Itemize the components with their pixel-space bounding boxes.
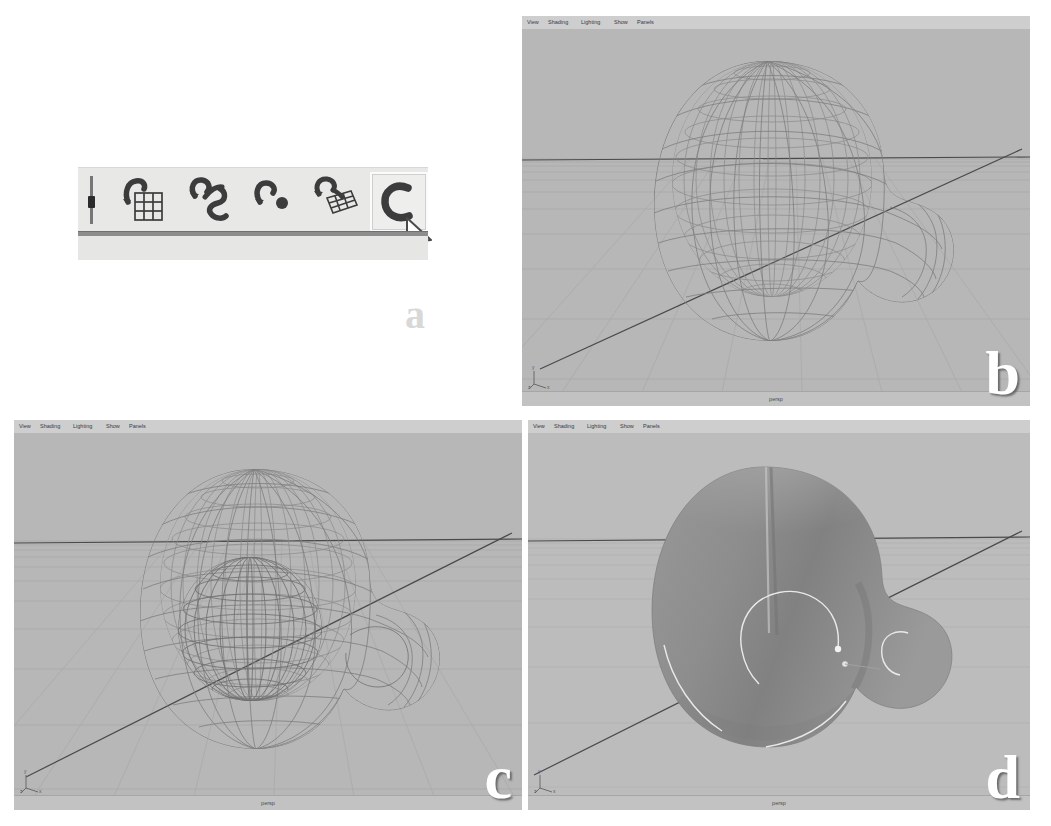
viewport-b-statusbar: persp [522, 391, 1030, 406]
panel-label-c: c [484, 746, 512, 808]
tool-attach-surfaces-button[interactable] [118, 172, 172, 228]
viewport-b-menubar[interactable]: View Shading Lighting Show Panels [522, 16, 1030, 30]
axis-triad-icon: y z x [528, 364, 554, 390]
wireframe-scene-c [14, 433, 522, 796]
panel-c-viewport[interactable]: View Shading Lighting Show Panels [14, 420, 522, 810]
panel-d-viewport[interactable]: View Shading Lighting Show Panels [528, 420, 1030, 810]
viewport-d-statusbar: persp [528, 795, 1030, 810]
toolbar-lower-strip [78, 236, 428, 260]
curve-on-grid-icon [118, 172, 172, 228]
viewport-d-axis-indicator: y z x [534, 768, 560, 794]
panel-label-b: b [986, 342, 1020, 404]
menu-shading[interactable]: Shading [548, 18, 568, 27]
toolbar-shelf [78, 167, 428, 232]
toolbar-drag-handle[interactable] [90, 176, 93, 224]
menu-lighting[interactable]: Lighting [587, 422, 606, 431]
curve-on-mesh-icon [307, 172, 361, 228]
viewport-c-menubar[interactable]: View Shading Lighting Show Panels [14, 420, 522, 434]
cv-point-1[interactable] [835, 646, 841, 652]
svg-text:y: y [538, 768, 541, 774]
viewport-b-axis-indicator: y z x [528, 364, 554, 390]
wireframe-scene-b [522, 29, 1030, 392]
curve-with-point-icon [244, 172, 298, 228]
two-curves-icon [181, 172, 235, 228]
svg-text:y: y [532, 364, 535, 370]
tool-birail-button[interactable] [307, 172, 361, 228]
viewport-d-menubar[interactable]: View Shading Lighting Show Panels [528, 420, 1030, 434]
viewport-b-canvas[interactable] [522, 29, 1030, 392]
menu-panels[interactable]: Panels [643, 422, 660, 431]
svg-text:y: y [24, 768, 27, 774]
menu-show[interactable]: Show [106, 422, 120, 431]
tool-loft-button[interactable] [181, 172, 235, 228]
panel-label-d: d [986, 746, 1020, 808]
menu-panels[interactable]: Panels [637, 18, 654, 27]
panel-label-a: a [405, 293, 443, 337]
menu-show[interactable]: Show [614, 18, 628, 27]
axis-triad-icon: y z x [534, 768, 560, 794]
tool-curve-point-button[interactable] [244, 172, 298, 228]
svg-text:x: x [39, 788, 42, 794]
viewport-c-axis-indicator: y z x [20, 768, 46, 794]
viewport-c-statusbar: persp [14, 795, 522, 810]
menu-view[interactable]: View [19, 422, 31, 431]
menu-show[interactable]: Show [620, 422, 634, 431]
menu-lighting[interactable]: Lighting [73, 422, 92, 431]
viewport-d-canvas[interactable] [528, 433, 1030, 796]
panel-b-viewport[interactable]: View Shading Lighting Show Panels [522, 16, 1030, 406]
panel-a-toolbar [78, 167, 428, 260]
viewport-c-canvas[interactable] [14, 433, 522, 796]
menu-lighting[interactable]: Lighting [581, 18, 600, 27]
menu-shading[interactable]: Shading [554, 422, 574, 431]
menu-shading[interactable]: Shading [40, 422, 60, 431]
camera-label-b: persp [769, 394, 783, 404]
menu-view[interactable]: View [533, 422, 545, 431]
camera-label-c: persp [261, 798, 275, 808]
axis-triad-icon: y z x [20, 768, 46, 794]
svg-text:x: x [547, 384, 550, 390]
menu-panels[interactable]: Panels [129, 422, 146, 431]
svg-text:x: x [553, 788, 556, 794]
shaded-scene-d [528, 433, 1030, 796]
camera-label-d: persp [772, 798, 786, 808]
menu-view[interactable]: View [527, 18, 539, 27]
